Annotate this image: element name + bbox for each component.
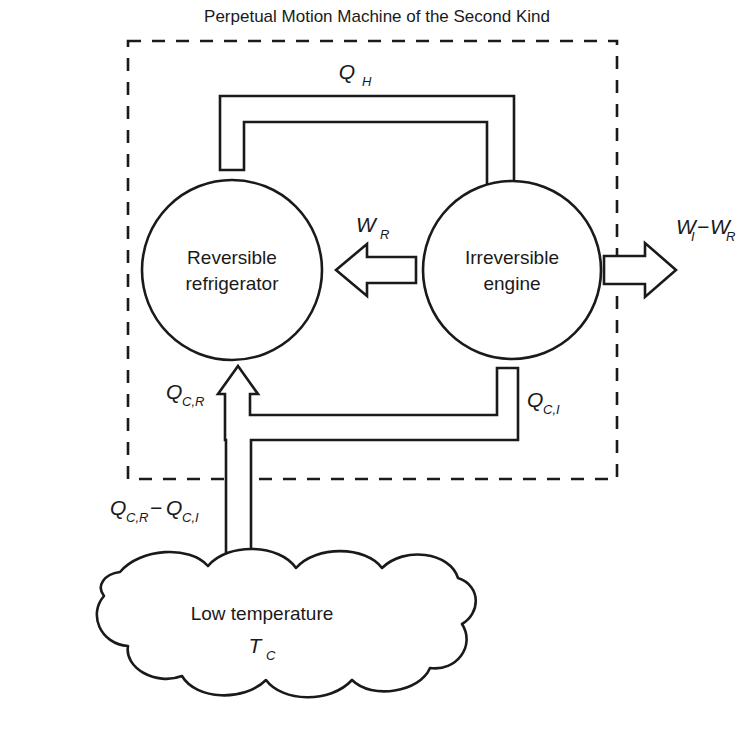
net-work-label-subscript-2: R [726,229,735,244]
qh-label-subscript: H [362,74,372,89]
low-temperature-subscript: C [266,648,276,663]
reversible-refrigerator-label-line1: Reversible [187,247,277,268]
wr-work-arrow [336,244,416,296]
irreversible-engine-label-line1: Irreversible [465,247,559,268]
wr-label-subscript: R [380,227,389,242]
low-temperature-symbol: T [249,634,264,657]
irreversible-engine-circle[interactable] [423,181,601,359]
qc-net-label-subscript-1: C,R [126,510,148,525]
diagram-canvas: Perpetual Motion Machine of the Second K… [0,0,755,734]
net-work-label-operator: − [697,215,709,238]
qci-label-symbol: Q [527,388,543,411]
net-work-output-arrow [604,243,676,297]
qci-label-subscript: C,I [543,402,560,417]
qc-net-label-subscript-2: C,I [182,510,199,525]
diagram-title: Perpetual Motion Machine of the Second K… [204,7,550,26]
net-work-label-symbol-1: W [676,215,698,238]
net-work-label-subscript-1: I [691,229,695,244]
irreversible-engine-label-line2: engine [483,273,540,294]
reversible-refrigerator-circle[interactable] [142,180,322,360]
qc-net-label-symbol-2: Q [166,496,182,519]
qh-label-symbol: Q [339,60,355,83]
qcr-label-subscript: C,R [182,394,204,409]
thermodynamics-diagram: Perpetual Motion Machine of the Second K… [0,0,755,734]
qc-net-label-symbol-1: Q [110,496,126,519]
qcr-label-symbol: Q [166,380,182,403]
reversible-refrigerator-label-line2: refrigerator [186,273,280,294]
wr-label-symbol: W [356,213,378,236]
low-temperature-reservoir-label: Low temperature [191,603,334,624]
qc-net-label-operator: − [150,496,162,519]
cold-heat-flow-arrow [218,366,518,559]
